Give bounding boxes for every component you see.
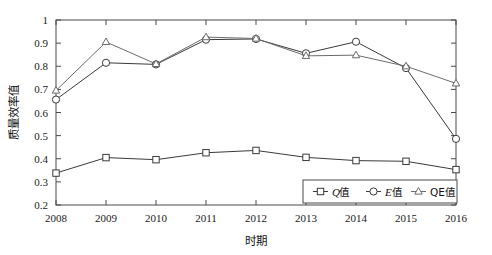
y-axis-tick-label: 0.4 [34, 153, 48, 165]
marker-circle [102, 59, 109, 66]
marker-square [353, 157, 359, 163]
y-axis-tick-label: 0.6 [34, 107, 48, 119]
legend-label: 值 [339, 186, 350, 198]
marker-circle [370, 188, 377, 195]
marker-square [253, 147, 259, 153]
y-axis-tick-label: 0.7 [34, 83, 48, 95]
x-axis-tick-label: 2011 [195, 212, 217, 224]
legend: Q值E值QE值 [303, 180, 457, 203]
x-axis-tick-label: 2014 [345, 212, 368, 224]
marker-square [53, 170, 59, 176]
chart-container: 0.20.30.40.50.60.70.80.91200820092010201… [0, 0, 492, 255]
x-axis-tick-label: 2015 [395, 212, 418, 224]
y-axis-tick-label: 0.2 [34, 199, 48, 211]
marker-square [203, 150, 209, 156]
x-axis-tick-label: 2016 [445, 212, 468, 224]
marker-square [103, 154, 109, 160]
marker-circle [52, 96, 59, 103]
marker-square [153, 156, 159, 162]
y-axis-tick-label: 1 [43, 14, 49, 26]
marker-circle [352, 38, 359, 45]
marker-circle [452, 135, 459, 142]
y-axis-tick-label: 0.5 [34, 130, 48, 142]
y-axis-tick-label: 0.8 [34, 60, 48, 72]
plot-frame [56, 20, 456, 205]
legend-label: 值 [392, 186, 403, 198]
line-chart: 0.20.30.40.50.60.70.80.91200820092010201… [0, 0, 492, 255]
x-axis-tick-label: 2010 [145, 212, 168, 224]
y-axis-tick-label: 0.9 [34, 37, 48, 49]
marker-square [403, 158, 409, 164]
y-axis-tick-label: 0.3 [34, 176, 48, 188]
x-axis-tick-label: 2013 [295, 212, 318, 224]
x-axis-tick-label: 2008 [45, 212, 68, 224]
x-axis-tick-label: 2009 [95, 212, 118, 224]
marker-square [303, 154, 309, 160]
marker-square [317, 188, 323, 194]
x-axis-title: 时期 [245, 234, 267, 248]
y-axis-title: 质量效率值 [7, 84, 21, 140]
x-axis-tick-label: 2012 [245, 212, 267, 224]
marker-square [453, 166, 459, 172]
legend-label: QE值 [430, 186, 456, 198]
